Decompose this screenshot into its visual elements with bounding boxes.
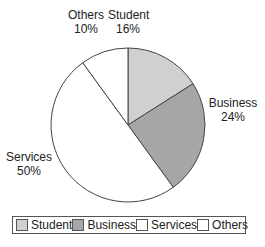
legend-label: Others xyxy=(212,218,248,232)
label-services-pct: 50% xyxy=(4,164,54,178)
label-student: Student 16% xyxy=(108,8,148,36)
legend-item-services: Services xyxy=(136,218,197,232)
legend-item-business: Business xyxy=(72,218,136,232)
legend-label: Business xyxy=(87,218,136,232)
label-services: Services 50% xyxy=(4,150,54,178)
label-others-pct: 10% xyxy=(66,22,106,36)
swatch-icon xyxy=(136,219,148,231)
legend-item-student: Student xyxy=(16,218,72,232)
label-student-pct: 16% xyxy=(108,22,148,36)
label-business-name: Business xyxy=(208,96,258,110)
label-student-name: Student xyxy=(108,8,148,22)
label-business: Business 24% xyxy=(208,96,258,124)
swatch-icon xyxy=(16,219,28,231)
legend: Student Business Services Others xyxy=(12,216,246,234)
swatch-icon xyxy=(72,219,84,231)
label-others-name: Others xyxy=(66,8,106,22)
label-others: Others 10% xyxy=(66,8,106,36)
swatch-icon xyxy=(197,219,209,231)
label-business-pct: 24% xyxy=(208,110,258,124)
legend-item-others: Others xyxy=(197,218,248,232)
legend-label: Student xyxy=(31,218,72,232)
legend-label: Services xyxy=(151,218,197,232)
label-services-name: Services xyxy=(4,150,54,164)
